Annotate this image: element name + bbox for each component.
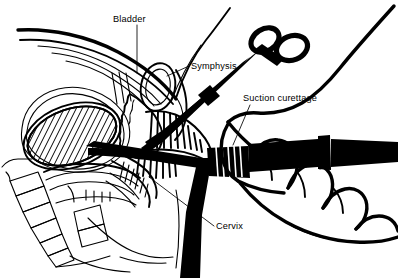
label-suction-curettage: Suction curettage [243,93,317,103]
label-symphysis: Symphysis [191,61,237,71]
suction-curettage-diagram: Bladder Symphysis Suction curettage Cerv… [0,0,398,278]
label-cervix: Cervix [216,221,243,231]
label-bladder: Bladder [113,14,146,24]
illustration-container: Bladder Symphysis Suction curettage Cerv… [0,0,398,278]
